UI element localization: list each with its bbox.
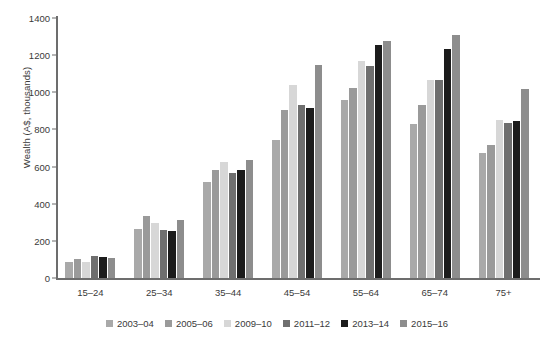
legend-item[interactable]: 2009–10 (224, 318, 272, 329)
bar-group: 45–54 (263, 18, 332, 278)
bar (134, 229, 142, 278)
bar-groups: 15–2425–3435–4445–5455–6465–7475+ (56, 18, 538, 278)
legend-swatch-icon (106, 320, 113, 327)
x-axis-line (56, 278, 540, 280)
bar (444, 49, 452, 278)
bar (74, 259, 82, 279)
y-axis-title: Wealth (A$, thousands) (21, 38, 32, 198)
bar (237, 170, 245, 278)
bar (108, 258, 116, 278)
bar (160, 230, 168, 278)
bar (487, 145, 495, 278)
bar (358, 61, 366, 278)
bar (341, 100, 349, 278)
x-axis-group-label: 55–64 (331, 287, 400, 298)
bar-group: 25–34 (125, 18, 194, 278)
bar (177, 220, 185, 278)
legend-item[interactable]: 2013–14 (341, 318, 389, 329)
chart-legend: 2003–042005–062009–102011–122013–142015–… (0, 318, 554, 329)
bar (203, 182, 211, 278)
x-axis-group-label: 35–44 (194, 287, 263, 298)
bar-group: 15–24 (56, 18, 125, 278)
bar (513, 121, 521, 278)
legend-label: 2005–06 (176, 318, 213, 329)
bar (65, 262, 73, 278)
bar (504, 123, 512, 278)
bar (99, 257, 107, 278)
bar (220, 162, 228, 278)
bar (410, 124, 418, 278)
bar (452, 35, 460, 278)
legend-swatch-icon (400, 320, 407, 327)
legend-label: 2003–04 (117, 318, 154, 329)
bar (151, 223, 159, 278)
bar (315, 65, 323, 278)
bar (306, 108, 314, 278)
legend-item[interactable]: 2011–12 (283, 318, 330, 329)
bar (143, 216, 151, 278)
bar (212, 170, 220, 278)
x-axis-group-label: 25–34 (125, 287, 194, 298)
bar (418, 105, 426, 278)
bar-group: 75+ (469, 18, 538, 278)
bar (375, 45, 383, 278)
bar (383, 41, 391, 278)
bar (246, 160, 254, 278)
bar (496, 120, 504, 278)
x-axis-group-label: 45–54 (263, 287, 332, 298)
bar (91, 256, 99, 278)
bar (349, 88, 357, 278)
legend-label: 2015–16 (411, 318, 448, 329)
x-axis-group-label: 15–24 (56, 287, 125, 298)
bar (168, 231, 176, 278)
bar (229, 173, 237, 278)
legend-label: 2013–14 (352, 318, 389, 329)
x-axis-group-label: 75+ (469, 287, 538, 298)
bar (427, 80, 435, 278)
bar (435, 80, 443, 278)
bar (479, 153, 487, 278)
x-axis-group-label: 65–74 (400, 287, 469, 298)
legend-label: 2011–12 (294, 318, 330, 329)
bar (366, 66, 374, 278)
bar (298, 105, 306, 278)
legend-item[interactable]: 2015–16 (400, 318, 448, 329)
legend-swatch-icon (283, 320, 290, 327)
bar-group: 35–44 (194, 18, 263, 278)
bar (289, 85, 297, 278)
legend-swatch-icon (341, 320, 348, 327)
bar-group: 55–64 (331, 18, 400, 278)
legend-label: 2009–10 (235, 318, 272, 329)
legend-swatch-icon (224, 320, 231, 327)
bar (521, 89, 529, 278)
legend-swatch-icon (165, 320, 172, 327)
plot-area: 1400120010008006004002000 15–2425–3435–4… (56, 18, 538, 278)
legend-item[interactable]: 2003–04 (106, 318, 154, 329)
legend-item[interactable]: 2005–06 (165, 318, 213, 329)
bar-group: 65–74 (400, 18, 469, 278)
bar (281, 110, 289, 278)
bar (82, 262, 90, 278)
bar (272, 140, 280, 278)
bar-chart: Wealth (A$, thousands) 14001200100080060… (0, 0, 554, 346)
